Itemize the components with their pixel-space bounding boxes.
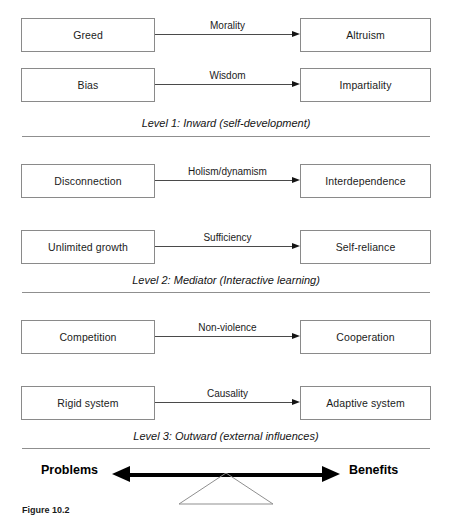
relation-row: Greed Morality Altruism bbox=[0, 18, 452, 52]
relation-row: Bias Wisdom Impartiality bbox=[0, 68, 452, 102]
balance-right-label: Benefits bbox=[349, 463, 398, 477]
mediator-label: Causality bbox=[155, 388, 300, 399]
transformation-arrow: Holism/dynamism bbox=[155, 180, 300, 182]
transformation-arrow: Wisdom bbox=[155, 84, 300, 86]
benefit-box[interactable]: Interdependence bbox=[300, 164, 431, 198]
mediator-label: Holism/dynamism bbox=[155, 166, 300, 177]
arrow-head-icon bbox=[292, 81, 300, 87]
arrow-head-icon bbox=[292, 399, 300, 405]
arrow-head-icon bbox=[292, 177, 300, 183]
arrow-head-icon bbox=[292, 31, 300, 37]
level-caption: Level 3: Outward (external influences) bbox=[0, 430, 452, 442]
arrow-shaft bbox=[155, 402, 293, 403]
problem-box[interactable]: Greed bbox=[21, 18, 155, 52]
benefit-box[interactable]: Self-reliance bbox=[300, 230, 431, 264]
transformation-arrow: Non-violence bbox=[155, 336, 300, 338]
arrow-shaft bbox=[155, 34, 293, 35]
relation-row: Disconnection Holism/dynamism Interdepen… bbox=[0, 164, 452, 198]
mediator-label: Non-violence bbox=[155, 322, 300, 333]
arrow-head-icon bbox=[292, 243, 300, 249]
arrow-shaft bbox=[155, 336, 293, 337]
relation-row: Unlimited growth Sufficiency Self-relian… bbox=[0, 230, 452, 264]
arrow-shaft bbox=[155, 246, 293, 247]
transformation-arrow: Causality bbox=[155, 402, 300, 404]
transformation-arrow: Morality bbox=[155, 34, 300, 36]
level-caption: Level 2: Mediator (Interactive learning) bbox=[0, 274, 452, 286]
figure-caption: Figure 10.2 bbox=[22, 505, 432, 516]
balance-left-label: Problems bbox=[41, 463, 98, 477]
transformation-arrow: Sufficiency bbox=[155, 246, 300, 248]
level-divider bbox=[22, 448, 430, 449]
mediator-label: Wisdom bbox=[155, 70, 300, 81]
level-divider bbox=[22, 136, 430, 137]
benefit-box[interactable]: Impartiality bbox=[300, 68, 431, 102]
benefit-box[interactable]: Adaptive system bbox=[300, 386, 431, 420]
arrow-shaft bbox=[155, 180, 293, 181]
relation-row: Competition Non-violence Cooperation bbox=[0, 320, 452, 354]
fulcrum-triangle-icon bbox=[178, 473, 274, 505]
mediator-label: Morality bbox=[155, 20, 300, 31]
problem-box[interactable]: Disconnection bbox=[21, 164, 155, 198]
benefit-box[interactable]: Altruism bbox=[300, 18, 431, 52]
problem-box[interactable]: Unlimited growth bbox=[21, 230, 155, 264]
right-arrow-head-icon bbox=[322, 466, 340, 482]
relation-row: Rigid system Causality Adaptive system bbox=[0, 386, 452, 420]
problem-box[interactable]: Rigid system bbox=[21, 386, 155, 420]
level-divider bbox=[22, 292, 430, 293]
problem-box[interactable]: Bias bbox=[21, 68, 155, 102]
problem-box[interactable]: Competition bbox=[21, 320, 155, 354]
level-caption: Level 1: Inward (self-development) bbox=[0, 117, 452, 129]
benefit-box[interactable]: Cooperation bbox=[300, 320, 431, 354]
left-arrow-head-icon bbox=[112, 466, 130, 482]
arrow-head-icon bbox=[292, 333, 300, 339]
mediator-label: Sufficiency bbox=[155, 232, 300, 243]
arrow-shaft bbox=[155, 84, 293, 85]
figure-number: Figure 10.2 bbox=[22, 505, 70, 515]
